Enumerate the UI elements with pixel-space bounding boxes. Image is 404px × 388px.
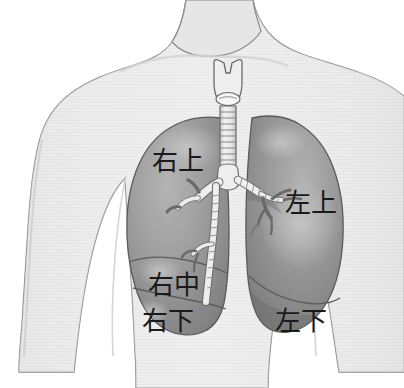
left-lung-apex-highlight <box>255 124 307 160</box>
trachea <box>220 106 236 172</box>
left-lower-branch-b <box>271 217 272 234</box>
label-left-lower-lobe: 左下 <box>275 308 327 334</box>
left-arm-seam <box>112 176 126 356</box>
label-right-middle-lobe: 右中 <box>148 272 200 298</box>
label-right-lower-lobe: 右下 <box>142 308 194 334</box>
anatomy-illustration <box>0 0 404 388</box>
lung-diagram-canvas: 右上 左上 右中 右下 左下 <box>0 0 404 388</box>
label-right-upper-lobe: 右上 <box>152 148 204 174</box>
label-left-upper-lobe: 左上 <box>285 190 337 216</box>
